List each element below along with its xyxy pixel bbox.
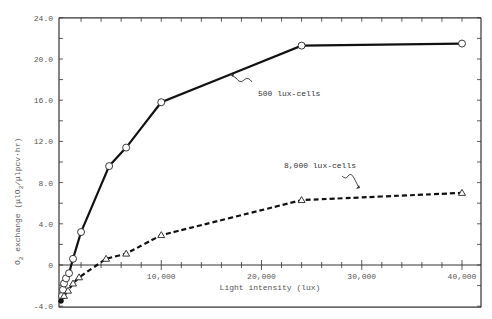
y-tick-label: 4.0 xyxy=(39,220,54,229)
triangle-marker-icon xyxy=(298,197,305,203)
x-axis: 10,00020,00030,00040,000 xyxy=(81,18,477,281)
x-tick-label: 20,000 xyxy=(247,272,276,281)
y-axis-label: O2 exchange (μlO2/μlpcv·hr) xyxy=(13,138,25,265)
annotation-500-lux-cells: 500 lux-cells xyxy=(258,89,321,98)
y-tick-label: 0 xyxy=(48,261,53,270)
chart: -4.004.08.012.016.020.024.0 10,00020,000… xyxy=(0,0,492,319)
y-tick-label: 16.0 xyxy=(34,96,53,105)
circle-marker-icon xyxy=(70,255,77,262)
y-tick-label: 20.0 xyxy=(34,55,53,64)
annotation-arrow-8000 xyxy=(342,174,358,186)
series-group xyxy=(59,40,466,304)
x-tick-label: 30,000 xyxy=(347,272,376,281)
annotation-8000-lux-cells: 8,000 lux-cells xyxy=(284,161,356,170)
data-point xyxy=(59,299,64,304)
circle-marker-icon xyxy=(158,99,165,106)
x-tick-label: 10,000 xyxy=(147,272,176,281)
x-axis-label: Light intensity (lux) xyxy=(220,283,321,292)
triangle-marker-icon xyxy=(158,232,165,238)
x-tick-label: 40,000 xyxy=(448,272,477,281)
triangle-marker-icon xyxy=(123,250,130,256)
y-tick-label: 12.0 xyxy=(34,137,53,146)
circle-marker-icon xyxy=(66,270,73,277)
circle-marker-icon xyxy=(123,144,130,151)
circle-marker-icon xyxy=(78,229,85,236)
circle-marker-icon xyxy=(106,163,113,170)
circle-marker-icon xyxy=(298,42,305,49)
y-tick-label: -4.0 xyxy=(34,302,53,311)
y-tick-label: 24.0 xyxy=(34,14,53,23)
plot-frame xyxy=(59,18,481,307)
y-tick-label: 8.0 xyxy=(39,179,54,188)
circle-marker-icon xyxy=(459,40,466,47)
